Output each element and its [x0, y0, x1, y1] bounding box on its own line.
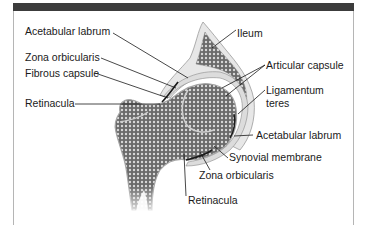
- label-retinacula-bottom: Retinacula: [188, 194, 238, 206]
- label-ligamentum-teres-2: teres: [266, 97, 289, 109]
- label-synovial-membrane: Synovial membrane: [229, 151, 322, 163]
- label-retinacula-top: Retinacula: [25, 97, 75, 109]
- label-articular-capsule: Articular capsule: [266, 59, 344, 71]
- label-fibrous-capsule: Fibrous capsule: [25, 67, 99, 79]
- label-acetabular-labrum-bottom: Acetabular labrum: [256, 129, 341, 141]
- label-acetabular-labrum-top: Acetabular labrum: [25, 25, 110, 37]
- label-zona-orbicularis-top: Zona orbicularis: [25, 51, 100, 63]
- label-ileum: Ileum: [237, 27, 263, 39]
- label-ligamentum-teres-1: Ligamentum: [266, 84, 324, 96]
- label-zona-orbicularis-bottom: Zona orbicularis: [199, 169, 274, 181]
